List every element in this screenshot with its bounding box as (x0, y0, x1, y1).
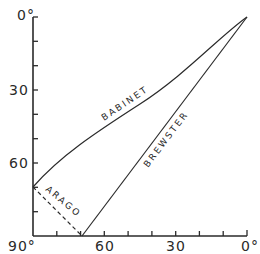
y-tick-label-30: 30 (9, 82, 29, 98)
x-tick-label-30: 30 (166, 238, 186, 254)
arago-label: ARAGO (44, 184, 83, 219)
babinet-curve (33, 17, 247, 187)
polarization-diagram: 0° 30 60 90° 60 30 0° BABINET BREWSTER A… (0, 0, 260, 254)
x-tick-label-90: 90° (8, 238, 36, 254)
x-tick-label-0: 0° (241, 238, 259, 254)
brewster-label: BREWSTER (142, 109, 191, 169)
y-tick-label-60: 60 (9, 155, 29, 171)
x-tick-label-60: 60 (95, 238, 115, 254)
y-tick-label-0: 0° (17, 7, 35, 23)
babinet-label: BABINET (100, 84, 151, 123)
